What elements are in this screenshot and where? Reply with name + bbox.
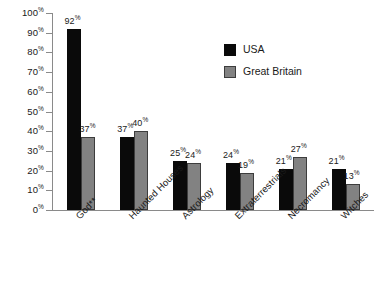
y-axis-tick-mark xyxy=(46,210,52,211)
legend-item-usa: USA xyxy=(224,43,302,56)
bar-value-label: 24% xyxy=(223,151,239,160)
y-axis-tick-label: 0% xyxy=(33,205,44,215)
x-axis-line xyxy=(52,210,374,211)
bar-usa xyxy=(67,29,81,210)
bar-value-label: 40% xyxy=(132,119,148,128)
bar-value-label: 92% xyxy=(64,17,80,26)
y-axis-tick-label: 60% xyxy=(27,87,44,97)
bar-value-label: 37% xyxy=(117,125,133,134)
y-axis-tick-label: 70% xyxy=(27,67,44,77)
bar-chart: 0%10%20%30%40%50%60%70%80%90%100% 92%37%… xyxy=(0,0,383,305)
y-axis-tick-mark xyxy=(46,33,52,34)
bar-group: 37%40% xyxy=(120,13,148,210)
y-axis-tick-label: 100% xyxy=(22,8,44,18)
y-axis-tick-label: 90% xyxy=(27,28,44,38)
legend-swatch-icon xyxy=(224,44,236,56)
y-axis-tick-mark xyxy=(46,171,52,172)
bar-value-label: 24% xyxy=(185,151,201,160)
bar-value-label: 25% xyxy=(170,149,186,158)
y-axis-tick-mark xyxy=(46,131,52,132)
y-axis-tick-label: 80% xyxy=(27,47,44,57)
y-axis-tick-label: 50% xyxy=(27,107,44,117)
y-axis-tick-label: 40% xyxy=(27,126,44,136)
bar-value-label: 27% xyxy=(291,145,307,154)
y-axis-tick-mark xyxy=(46,92,52,93)
bar-value-label: 21% xyxy=(329,157,345,166)
y-axis-tick-mark xyxy=(46,13,52,14)
bar-usa xyxy=(226,163,240,210)
y-axis-tick-label: 20% xyxy=(27,166,44,176)
legend-swatch-icon xyxy=(224,66,236,78)
legend-label: Great Britain xyxy=(243,66,302,77)
y-axis-tick-mark xyxy=(46,52,52,53)
y-axis-tick-label: 30% xyxy=(27,146,44,156)
bar-usa xyxy=(120,137,134,210)
bar-group: 21%13% xyxy=(332,13,360,210)
bar-value-label: 37% xyxy=(79,125,95,134)
bar-value-label: 21% xyxy=(276,157,292,166)
bar-value-label: 13% xyxy=(344,172,360,181)
bar-group: 92%37% xyxy=(67,13,95,210)
y-axis-tick-label: 10% xyxy=(27,185,44,195)
y-axis-tick-mark xyxy=(46,72,52,73)
y-axis-tick-mark xyxy=(46,190,52,191)
bar-value-label: 19% xyxy=(238,161,254,170)
y-axis-tick-mark xyxy=(46,112,52,113)
bar-group: 25%24% xyxy=(173,13,201,210)
y-axis-tick-mark xyxy=(46,151,52,152)
legend-item-great-britain: Great Britain xyxy=(224,65,302,78)
chart-legend: USA Great Britain xyxy=(224,43,302,87)
legend-label: USA xyxy=(243,44,265,55)
